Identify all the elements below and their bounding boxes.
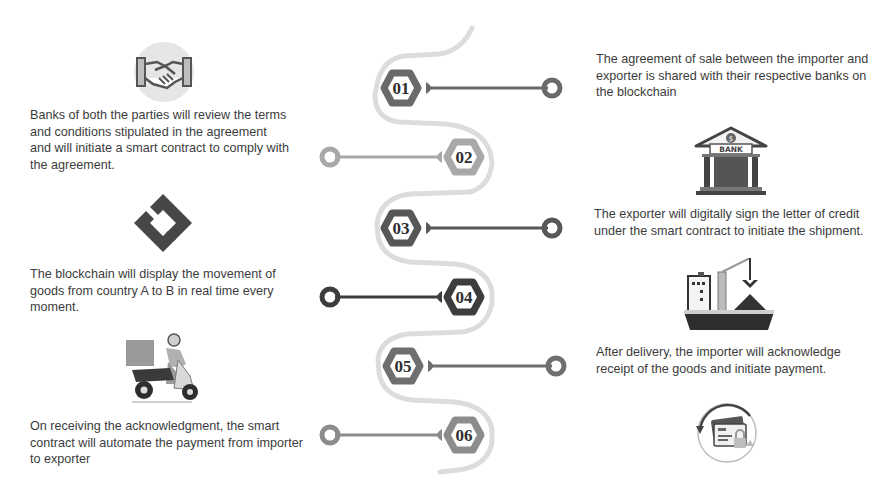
svg-text:03: 03 [393, 219, 410, 238]
step-06-description: On receiving the acknowledgment, the sma… [30, 418, 310, 468]
bank-icon: $ BANK [692, 124, 770, 202]
step-04-node: 04 [322, 282, 481, 312]
svg-text:05: 05 [395, 357, 412, 376]
step-05-description: After delivery, the importer will acknow… [596, 344, 871, 377]
step-01-node: 01 [384, 73, 560, 103]
step-05-node: 05 [386, 351, 564, 381]
step-06-node: 06 [322, 420, 481, 450]
delivery-scooter-icon [122, 332, 206, 408]
svg-text:BANK: BANK [719, 145, 744, 154]
secure-card-payment-icon [694, 400, 760, 470]
step-03-node: 03 [384, 213, 560, 243]
blockchain-logo-icon [130, 190, 196, 260]
step-02-node: 02 [322, 142, 481, 172]
cargo-ship-icon [684, 258, 776, 338]
svg-text:01: 01 [393, 79, 410, 98]
svg-text:04: 04 [456, 288, 474, 307]
step-03-description: The exporter will digitally sign the let… [594, 206, 879, 239]
step-04-description: The blockchain will display the movement… [30, 266, 290, 316]
svg-text:$: $ [729, 135, 733, 143]
step-01-description: The agreement of sale between the import… [596, 51, 871, 101]
handshake-icon [131, 40, 195, 108]
svg-text:02: 02 [456, 148, 473, 167]
svg-text:06: 06 [456, 426, 473, 445]
step-02-description: Banks of both the parties will review th… [30, 107, 290, 173]
